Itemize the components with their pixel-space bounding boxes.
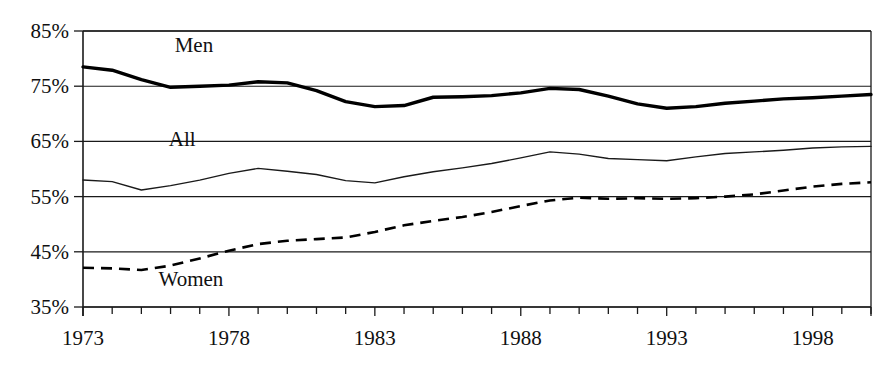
x-axis-label: 1983 bbox=[354, 326, 396, 350]
series-label-women: Women bbox=[159, 267, 224, 291]
series-label-all: All bbox=[169, 127, 196, 151]
line-chart: 85%75%65%55%45%35% 197319781983198819931… bbox=[0, 0, 892, 380]
y-axis-label: 55% bbox=[31, 185, 70, 209]
chart-background bbox=[0, 0, 892, 380]
chart-canvas: 85%75%65%55%45%35% 197319781983198819931… bbox=[0, 0, 892, 380]
x-axis-label: 1978 bbox=[208, 326, 250, 350]
y-axis-label: 65% bbox=[31, 129, 70, 153]
x-axis-label: 1993 bbox=[646, 326, 688, 350]
x-axis-label: 1988 bbox=[500, 326, 542, 350]
y-axis-label: 75% bbox=[31, 74, 70, 98]
x-axis-label: 1998 bbox=[792, 326, 834, 350]
x-axis-label: 1973 bbox=[62, 326, 104, 350]
y-axis-label: 35% bbox=[31, 295, 70, 319]
series-label-men: Men bbox=[175, 33, 214, 57]
y-axis-label: 45% bbox=[31, 240, 70, 264]
y-axis-label: 85% bbox=[31, 19, 70, 43]
